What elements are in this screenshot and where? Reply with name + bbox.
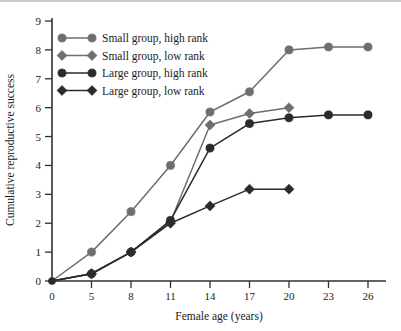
- data-point-circle-marker: [206, 144, 214, 152]
- line-chart-plot: 0123456789 058111417202326 Female age (y…: [0, 0, 401, 331]
- x-tick-label: 5: [89, 290, 95, 302]
- y-tick-label: 9: [36, 15, 42, 27]
- x-tick-label: 23: [323, 290, 335, 302]
- data-point-circle-marker: [285, 114, 293, 122]
- legend-item-1[interactable]: Small group, high rank: [58, 32, 208, 45]
- data-point-circle-marker: [58, 34, 66, 42]
- x-tick-label: 11: [165, 290, 176, 302]
- data-point-circle-marker: [127, 208, 135, 216]
- y-axis-ticks: 0123456789: [36, 15, 53, 287]
- legend-item-label: Small group, high rank: [102, 32, 208, 45]
- legend-item-label: Large group, low rank: [102, 85, 205, 98]
- chart-figure: 0123456789 058111417202326 Female age (y…: [0, 0, 401, 331]
- y-tick-label: 5: [36, 131, 42, 143]
- data-point-circle-marker: [58, 69, 66, 77]
- data-point-diamond-marker: [244, 184, 254, 194]
- legend-item-4[interactable]: Large group, low rank: [57, 85, 205, 98]
- data-point-diamond-marker: [205, 120, 215, 130]
- data-point-circle-marker: [364, 111, 372, 119]
- chart-series-4: [52, 184, 294, 281]
- y-tick-label: 0: [36, 275, 42, 287]
- legend-item-3[interactable]: Large group, high rank: [58, 67, 208, 80]
- x-axis-title: Female age (years): [175, 310, 263, 323]
- data-point-circle-marker: [88, 34, 96, 42]
- y-tick-label: 7: [36, 73, 42, 85]
- series-line: [52, 115, 368, 281]
- data-point-circle-marker: [166, 161, 174, 169]
- data-point-diamond-marker: [244, 108, 254, 118]
- y-tick-label: 3: [36, 188, 42, 200]
- y-tick-label: 8: [36, 44, 42, 56]
- y-tick-label: 1: [36, 246, 42, 258]
- data-point-diamond-marker: [205, 201, 215, 211]
- y-tick-label: 2: [36, 217, 42, 229]
- data-point-diamond-marker: [87, 85, 97, 95]
- data-point-circle-marker: [48, 277, 55, 284]
- chart-series-layer: [48, 43, 372, 285]
- data-point-circle-marker: [88, 69, 96, 77]
- chart-legend: Small group, high rankSmall group, low r…: [57, 32, 208, 98]
- data-point-diamond-marker: [86, 269, 96, 279]
- legend-item-label: Small group, low rank: [102, 50, 205, 63]
- data-point-circle-marker: [87, 248, 95, 256]
- data-point-circle-marker: [285, 46, 293, 54]
- y-tick-label: 4: [36, 159, 42, 171]
- data-point-diamond-marker: [284, 103, 294, 113]
- series-line: [52, 47, 368, 281]
- chart-series-3: [52, 111, 372, 281]
- x-tick-label: 17: [244, 290, 256, 302]
- chart-series-1: [52, 43, 372, 281]
- y-tick-label: 6: [36, 102, 42, 114]
- data-point-circle-marker: [206, 108, 214, 116]
- data-point-circle-marker: [324, 111, 332, 119]
- y-axis-title: Cumulative reproductive success: [4, 73, 17, 226]
- x-tick-label: 0: [49, 290, 55, 302]
- x-tick-label: 20: [284, 290, 296, 302]
- legend-item-2[interactable]: Small group, low rank: [57, 50, 205, 63]
- x-axis-ticks: 058111417202326: [49, 281, 374, 302]
- series-line: [52, 189, 289, 281]
- data-point-diamond-marker: [284, 184, 294, 194]
- data-point-diamond-marker: [57, 50, 67, 60]
- data-point-circle-marker: [364, 43, 372, 51]
- data-point-circle-marker: [245, 119, 253, 127]
- data-point-diamond-marker: [87, 50, 97, 60]
- data-point-diamond-marker: [57, 85, 67, 95]
- legend-item-label: Large group, high rank: [102, 67, 208, 80]
- x-tick-label: 14: [205, 290, 217, 302]
- x-tick-label: 26: [363, 290, 375, 302]
- data-point-circle-marker: [245, 88, 253, 96]
- data-point-circle-marker: [324, 43, 332, 51]
- x-tick-label: 8: [128, 290, 134, 302]
